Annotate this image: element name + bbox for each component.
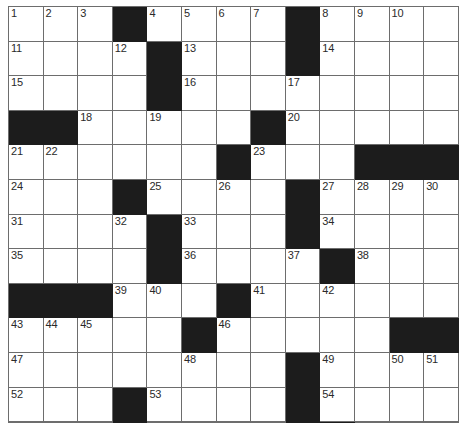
crossword-open-cell[interactable]: 6 [217, 7, 252, 42]
crossword-open-cell[interactable] [251, 422, 286, 423]
crossword-open-cell[interactable] [355, 353, 390, 388]
crossword-open-cell[interactable] [78, 145, 113, 180]
crossword-open-cell[interactable] [113, 145, 148, 180]
crossword-open-cell[interactable] [182, 145, 217, 180]
crossword-open-cell[interactable] [355, 388, 390, 423]
crossword-open-cell[interactable]: 2 [44, 7, 79, 42]
crossword-open-cell[interactable]: 55 [9, 422, 44, 423]
crossword-open-cell[interactable]: 19 [147, 111, 182, 146]
crossword-open-cell[interactable]: 7 [251, 7, 286, 42]
crossword-open-cell[interactable] [424, 76, 459, 111]
crossword-open-cell[interactable]: 51 [424, 353, 459, 388]
crossword-open-cell[interactable] [44, 422, 79, 423]
crossword-open-cell[interactable] [182, 180, 217, 215]
crossword-open-cell[interactable]: 37 [286, 249, 321, 284]
crossword-open-cell[interactable] [217, 76, 252, 111]
crossword-open-cell[interactable] [251, 353, 286, 388]
crossword-open-cell[interactable] [251, 388, 286, 423]
crossword-open-cell[interactable] [217, 353, 252, 388]
crossword-open-cell[interactable]: 11 [9, 42, 44, 77]
crossword-open-cell[interactable] [217, 42, 252, 77]
crossword-open-cell[interactable]: 44 [44, 318, 79, 353]
crossword-open-cell[interactable]: 12 [113, 42, 148, 77]
crossword-open-cell[interactable]: 34 [320, 215, 355, 250]
crossword-open-cell[interactable] [44, 180, 79, 215]
crossword-open-cell[interactable] [217, 249, 252, 284]
crossword-open-cell[interactable] [424, 7, 459, 42]
crossword-open-cell[interactable] [44, 215, 79, 250]
crossword-open-cell[interactable]: 30 [424, 180, 459, 215]
crossword-open-cell[interactable]: 4 [147, 7, 182, 42]
crossword-open-cell[interactable] [424, 215, 459, 250]
crossword-open-cell[interactable]: 26 [217, 180, 252, 215]
crossword-open-cell[interactable]: 9 [355, 7, 390, 42]
crossword-open-cell[interactable]: 1 [9, 7, 44, 42]
crossword-open-cell[interactable] [251, 318, 286, 353]
crossword-open-cell[interactable] [44, 76, 79, 111]
crossword-open-cell[interactable]: 14 [320, 42, 355, 77]
crossword-open-cell[interactable] [390, 388, 425, 423]
crossword-open-cell[interactable]: 54 [320, 388, 355, 423]
crossword-open-cell[interactable] [78, 388, 113, 423]
crossword-open-cell[interactable] [44, 249, 79, 284]
crossword-open-cell[interactable] [182, 284, 217, 319]
crossword-open-cell[interactable]: 45 [78, 318, 113, 353]
crossword-open-cell[interactable] [182, 111, 217, 146]
crossword-open-cell[interactable] [78, 353, 113, 388]
crossword-open-cell[interactable] [390, 76, 425, 111]
crossword-open-cell[interactable] [217, 111, 252, 146]
crossword-open-cell[interactable]: 46 [217, 318, 252, 353]
crossword-open-cell[interactable] [251, 76, 286, 111]
crossword-open-cell[interactable]: 16 [182, 76, 217, 111]
crossword-open-cell[interactable]: 24 [9, 180, 44, 215]
crossword-open-cell[interactable] [113, 76, 148, 111]
crossword-open-cell[interactable] [390, 422, 425, 423]
crossword-open-cell[interactable] [217, 215, 252, 250]
crossword-open-cell[interactable] [320, 145, 355, 180]
crossword-open-cell[interactable]: 18 [78, 111, 113, 146]
crossword-open-cell[interactable] [251, 180, 286, 215]
crossword-open-cell[interactable]: 36 [182, 249, 217, 284]
crossword-open-cell[interactable] [355, 76, 390, 111]
crossword-open-cell[interactable]: 32 [113, 215, 148, 250]
crossword-open-cell[interactable] [78, 422, 113, 423]
crossword-open-cell[interactable] [78, 215, 113, 250]
crossword-open-cell[interactable]: 40 [147, 284, 182, 319]
crossword-open-cell[interactable]: 41 [251, 284, 286, 319]
crossword-open-cell[interactable] [44, 42, 79, 77]
crossword-open-cell[interactable] [113, 318, 148, 353]
crossword-open-cell[interactable] [355, 284, 390, 319]
crossword-open-cell[interactable] [424, 388, 459, 423]
crossword-open-cell[interactable]: 3 [78, 7, 113, 42]
crossword-open-cell[interactable] [286, 284, 321, 319]
crossword-open-cell[interactable] [424, 422, 459, 423]
crossword-open-cell[interactable]: 10 [390, 7, 425, 42]
crossword-open-cell[interactable] [78, 249, 113, 284]
crossword-open-cell[interactable] [113, 353, 148, 388]
crossword-open-cell[interactable] [424, 284, 459, 319]
crossword-open-cell[interactable] [78, 180, 113, 215]
crossword-open-cell[interactable]: 28 [355, 180, 390, 215]
crossword-open-cell[interactable]: 15 [9, 76, 44, 111]
crossword-open-cell[interactable] [424, 42, 459, 77]
crossword-open-cell[interactable] [182, 422, 217, 423]
crossword-open-cell[interactable] [44, 388, 79, 423]
crossword-grid[interactable]: 1234567891011121314151617181920212223242… [8, 6, 459, 423]
crossword-open-cell[interactable]: 22 [44, 145, 79, 180]
crossword-open-cell[interactable]: 43 [9, 318, 44, 353]
crossword-open-cell[interactable]: 35 [9, 249, 44, 284]
crossword-open-cell[interactable] [286, 145, 321, 180]
crossword-open-cell[interactable]: 5 [182, 7, 217, 42]
crossword-open-cell[interactable]: 53 [147, 388, 182, 423]
crossword-open-cell[interactable]: 31 [9, 215, 44, 250]
crossword-open-cell[interactable] [390, 215, 425, 250]
crossword-open-cell[interactable] [251, 215, 286, 250]
crossword-open-cell[interactable] [251, 249, 286, 284]
crossword-open-cell[interactable] [424, 249, 459, 284]
crossword-open-cell[interactable]: 8 [320, 7, 355, 42]
crossword-open-cell[interactable] [424, 111, 459, 146]
crossword-open-cell[interactable] [320, 318, 355, 353]
crossword-open-cell[interactable]: 48 [182, 353, 217, 388]
crossword-open-cell[interactable] [147, 353, 182, 388]
crossword-open-cell[interactable]: 38 [355, 249, 390, 284]
